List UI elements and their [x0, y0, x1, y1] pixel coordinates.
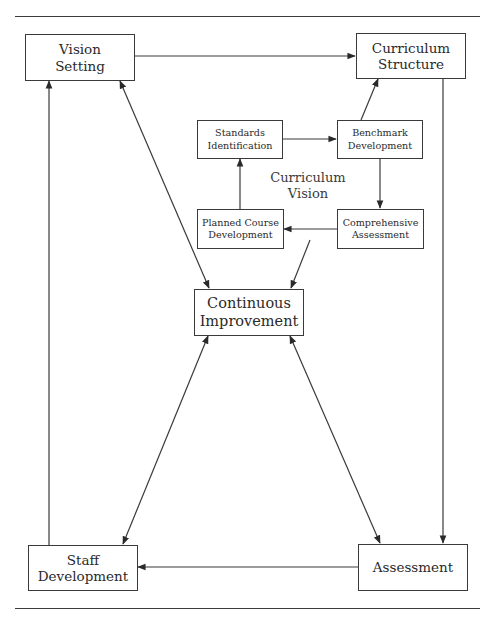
node-assessment: Assessment [358, 544, 468, 591]
node-planned-course-development: Planned Course Development [197, 209, 284, 249]
arrow-vision-improvement [120, 81, 209, 288]
node-standards-identification: Standards Identification [197, 120, 283, 159]
arrow-improvement-staff [123, 336, 208, 544]
arrow-improvement-assessment [290, 336, 380, 543]
center-label-curriculum-vision: Curriculum Vision [268, 170, 348, 203]
node-label: Benchmark Development [348, 127, 412, 152]
node-vision-setting: Vision Setting [25, 34, 135, 81]
node-label: Curriculum Structure [372, 40, 450, 73]
node-label: Comprehensive Assessment [343, 217, 419, 242]
node-label: Planned Course Development [202, 217, 279, 242]
node-staff-development: Staff Development [28, 545, 138, 591]
node-label: Standards Identification [207, 127, 272, 152]
arrow-vision-cluster-to-improvement [291, 240, 310, 288]
node-label: Continuous Improvement [200, 295, 299, 330]
node-label: Staff Development [38, 552, 128, 585]
node-benchmark-development: Benchmark Development [337, 120, 423, 159]
node-label: Vision Setting [55, 41, 105, 74]
node-label: Assessment [373, 559, 453, 575]
node-comprehensive-assessment: Comprehensive Assessment [337, 209, 424, 249]
node-continuous-improvement: Continuous Improvement [194, 289, 304, 336]
arrow-benchmark-to-structure [361, 79, 378, 120]
node-curriculum-structure: Curriculum Structure [356, 33, 466, 79]
